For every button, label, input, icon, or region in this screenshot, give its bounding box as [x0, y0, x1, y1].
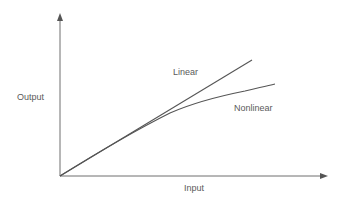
- y-axis-arrow-icon: [57, 13, 63, 21]
- x-axis-label: Input: [184, 183, 205, 193]
- nonlinear-series-curve: [60, 84, 275, 176]
- linear-label: Linear: [173, 67, 198, 77]
- nonlinear-label: Nonlinear: [234, 103, 273, 113]
- x-axis-arrow-icon: [320, 173, 328, 179]
- y-axis-label: Output: [17, 92, 45, 102]
- linear-vs-nonlinear-chart: Linear Nonlinear Output Input: [0, 0, 344, 199]
